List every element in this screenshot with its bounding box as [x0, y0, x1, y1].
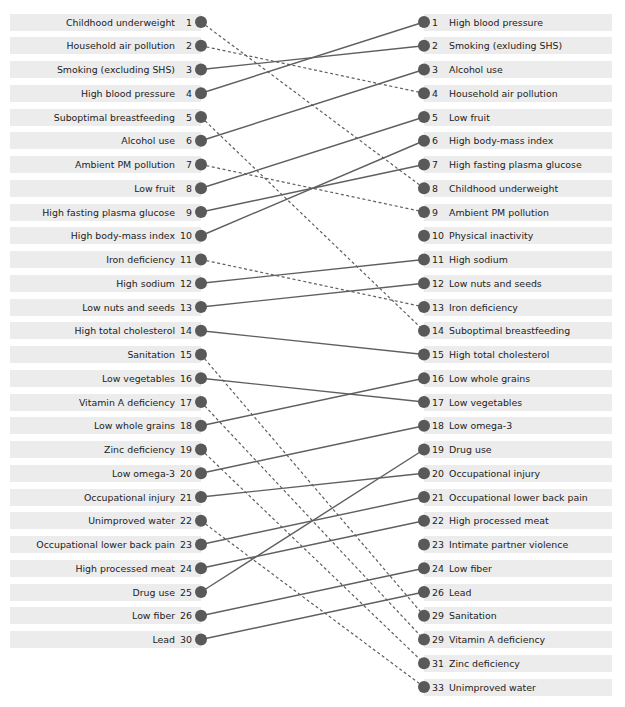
solid-link-line — [201, 426, 424, 474]
right-dot-icon — [418, 87, 430, 99]
right-dot-icon — [418, 64, 430, 76]
right-dot-icon — [418, 634, 430, 646]
left-dot-icon — [195, 467, 207, 479]
dashed-link-line — [201, 260, 424, 308]
right-dot-icon — [418, 515, 430, 527]
right-dot-icon — [418, 182, 430, 194]
right-dot-icon — [418, 562, 430, 574]
left-dot-icon — [195, 539, 207, 551]
solid-link-line — [201, 378, 424, 402]
right-dot-icon — [418, 396, 430, 408]
left-dot-icon — [195, 325, 207, 337]
solid-link-line — [201, 473, 424, 497]
right-dot-icon — [418, 230, 430, 242]
solid-link-line — [201, 568, 424, 616]
dashed-link-line — [201, 450, 424, 664]
left-dot-icon — [195, 301, 207, 313]
right-dot-icon — [418, 681, 430, 693]
left-dot-icon — [195, 40, 207, 52]
solid-link-line — [201, 141, 424, 236]
right-dot-icon — [418, 206, 430, 218]
right-dot-icon — [418, 16, 430, 28]
right-dot-icon — [418, 586, 430, 598]
right-dot-icon — [418, 325, 430, 337]
solid-link-line — [201, 283, 424, 307]
left-dot-icon — [195, 87, 207, 99]
right-dot-icon — [418, 135, 430, 147]
caption-blurred — [10, 698, 615, 704]
solid-link-line — [201, 70, 424, 141]
left-dot-icon — [195, 277, 207, 289]
solid-link-line — [201, 521, 424, 569]
left-dot-icon — [195, 610, 207, 622]
left-dot-icon — [195, 230, 207, 242]
right-dot-icon — [418, 349, 430, 361]
left-dot-icon — [195, 64, 207, 76]
left-dot-icon — [195, 135, 207, 147]
right-dot-icon — [418, 277, 430, 289]
left-dot-icon — [195, 586, 207, 598]
left-dot-icon — [195, 444, 207, 456]
right-dot-icon — [418, 491, 430, 503]
right-dot-icon — [418, 467, 430, 479]
solid-link-line — [201, 378, 424, 426]
right-dot-icon — [418, 40, 430, 52]
left-dot-icon — [195, 372, 207, 384]
left-dot-icon — [195, 206, 207, 218]
left-dot-icon — [195, 16, 207, 28]
left-dot-icon — [195, 634, 207, 646]
solid-link-line — [201, 22, 424, 93]
right-dot-icon — [418, 539, 430, 551]
dashed-link-line — [201, 117, 424, 331]
dashed-link-line — [201, 46, 424, 94]
right-dot-icon — [418, 610, 430, 622]
right-dot-icon — [418, 372, 430, 384]
right-dot-icon — [418, 301, 430, 313]
right-dot-icon — [418, 159, 430, 171]
solid-link-line — [201, 592, 424, 640]
solid-link-line — [201, 331, 424, 355]
left-dot-icon — [195, 182, 207, 194]
left-dot-icon — [195, 515, 207, 527]
solid-link-line — [201, 260, 424, 284]
left-dot-icon — [195, 562, 207, 574]
left-dot-icon — [195, 159, 207, 171]
right-dot-icon — [418, 444, 430, 456]
rank-link-lines — [0, 0, 625, 707]
solid-link-line — [201, 117, 424, 188]
left-dot-icon — [195, 420, 207, 432]
right-dot-icon — [418, 111, 430, 123]
left-dot-icon — [195, 111, 207, 123]
solid-link-line — [201, 450, 424, 593]
left-dot-icon — [195, 396, 207, 408]
left-dot-icon — [195, 254, 207, 266]
left-dot-icon — [195, 491, 207, 503]
right-dot-icon — [418, 254, 430, 266]
right-dot-icon — [418, 420, 430, 432]
right-dot-icon — [418, 657, 430, 669]
left-dot-icon — [195, 349, 207, 361]
